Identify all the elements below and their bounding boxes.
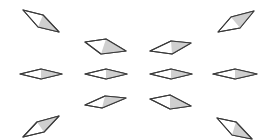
rhombus-bottom-left	[23, 116, 59, 137]
rhombus-lower-left	[85, 96, 126, 108]
rhombus-shaded-half	[106, 69, 127, 79]
rhombus-shaded-half	[171, 69, 192, 79]
rhombus-upper-right	[150, 41, 191, 54]
rhombus-mid-far-left	[20, 69, 62, 79]
rhombus-shaded-half	[41, 69, 62, 79]
rhombus-shaded-half	[235, 69, 257, 79]
shapes-layer	[20, 10, 257, 139]
rhombus-lower-right	[150, 95, 191, 109]
rhombus-top-right	[218, 11, 254, 32]
rhombus-top-left	[23, 10, 59, 32]
rhombus-mid-far-right	[213, 69, 257, 79]
rhombus-mid-right	[150, 69, 192, 79]
rhombus-upper-left	[85, 39, 126, 54]
rhombus-bottom-right	[217, 118, 252, 139]
rhombus-pattern-diagram	[0, 0, 273, 140]
rhombus-mid-left	[85, 69, 127, 79]
